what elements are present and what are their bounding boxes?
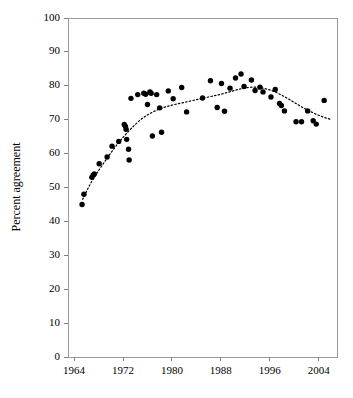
data-point (252, 88, 257, 93)
data-point (214, 105, 219, 110)
data-point (299, 119, 304, 124)
data-point (123, 126, 128, 131)
data-point (128, 96, 133, 101)
data-point (273, 87, 278, 92)
data-point (222, 109, 227, 114)
y-axis-ticks: 0102030405060708090100 (44, 11, 69, 362)
data-point (157, 105, 162, 110)
data-point (145, 102, 150, 107)
data-point (79, 202, 84, 207)
x-tick-label: 1980 (161, 364, 184, 376)
y-axis-label: Percent agreement (9, 142, 23, 232)
plot-area-border (68, 18, 337, 357)
x-tick-label: 1996 (259, 364, 282, 376)
data-point (109, 143, 114, 148)
data-point (241, 84, 246, 89)
data-point (104, 154, 109, 159)
data-point (200, 95, 205, 100)
x-tick-label: 2004 (308, 364, 331, 376)
data-point (233, 75, 238, 80)
data-point (184, 109, 189, 114)
data-point (150, 133, 155, 138)
data-point (148, 91, 153, 96)
x-tick-label: 1964 (63, 364, 86, 376)
y-tick-label: 70 (49, 112, 61, 124)
data-point (305, 108, 310, 113)
x-axis-ticks: 196419721980198819962004 (63, 357, 330, 376)
data-point (159, 130, 164, 135)
data-point (260, 89, 265, 94)
x-tick-label: 1988 (210, 364, 233, 376)
data-point (126, 157, 131, 162)
y-tick-label: 30 (49, 248, 61, 260)
data-point (268, 94, 273, 99)
y-tick-label: 60 (49, 146, 61, 158)
data-point (227, 85, 232, 90)
data-point (92, 171, 97, 176)
x-tick-label: 1972 (112, 364, 134, 376)
y-tick-label: 50 (49, 180, 61, 192)
data-point (166, 88, 171, 93)
data-point (257, 84, 262, 89)
data-point (179, 85, 184, 90)
y-tick-label: 90 (49, 44, 61, 56)
data-point (126, 146, 131, 151)
y-tick-label: 40 (49, 214, 61, 226)
y-tick-label: 80 (49, 78, 61, 90)
y-tick-label: 0 (55, 350, 61, 362)
data-point (219, 81, 224, 86)
y-tick-label: 20 (49, 282, 61, 294)
data-point (282, 108, 287, 113)
data-point (116, 139, 121, 144)
chart-container: 0102030405060708090100 19641972198019881… (0, 0, 353, 398)
data-point (154, 92, 159, 97)
data-points (79, 71, 326, 207)
data-point (279, 103, 284, 108)
data-point (170, 96, 175, 101)
data-point (124, 137, 129, 142)
data-point (96, 161, 101, 166)
data-point (81, 192, 86, 197)
data-point (321, 98, 326, 103)
y-tick-label: 10 (49, 316, 61, 328)
scatter-plot: 0102030405060708090100 19641972198019881… (0, 0, 353, 398)
data-point (249, 77, 254, 82)
data-point (293, 119, 298, 124)
data-point (238, 71, 243, 76)
data-point (314, 121, 319, 126)
plot-frame (68, 18, 337, 357)
y-tick-label: 100 (44, 11, 61, 23)
data-point (135, 92, 140, 97)
data-point (208, 78, 213, 83)
